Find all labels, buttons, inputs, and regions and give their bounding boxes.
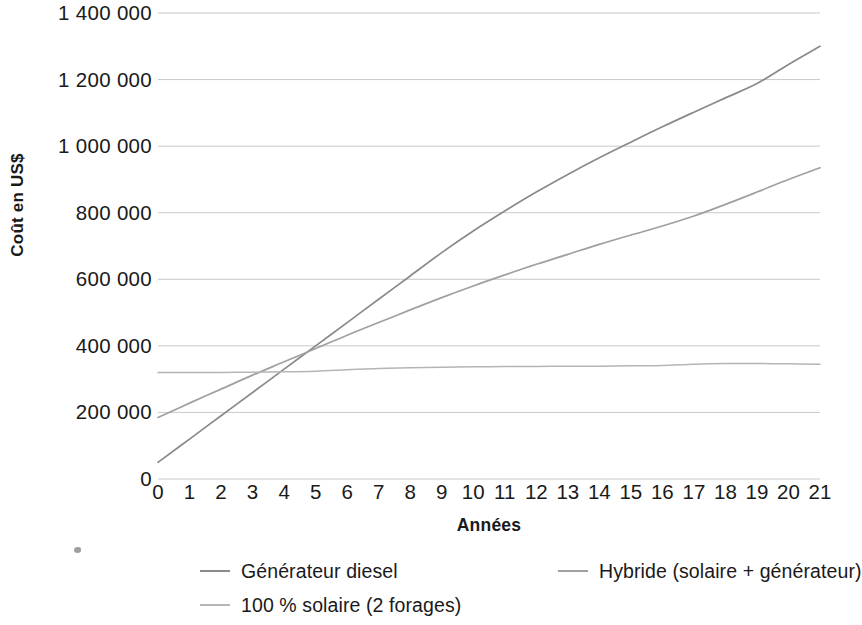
- x-axis-tick-label: 1: [184, 481, 195, 503]
- x-axis-tick-labels: 0123456789101112131415161718192021: [158, 481, 820, 511]
- x-axis-tick-label: 12: [525, 481, 548, 503]
- x-axis-tick-label: 8: [404, 481, 415, 503]
- scan-artifact-speck: [74, 547, 81, 553]
- legend-row: 100 % solaire (2 forages): [158, 590, 828, 620]
- y-axis-tick-label: 200 000: [6, 402, 152, 423]
- x-axis-tick-label: 11: [494, 481, 515, 503]
- y-axis-tick-label: 0: [6, 469, 152, 490]
- series-line: [158, 168, 820, 418]
- y-axis-tick-label: 1 000 000: [6, 136, 152, 157]
- x-axis-tick-label: 3: [247, 481, 258, 503]
- plot-area: [158, 13, 820, 479]
- gridlines: [158, 13, 820, 479]
- legend-swatch-icon: [200, 570, 230, 572]
- legend-label: Générateur diesel: [241, 560, 398, 582]
- y-axis-tick-label: 400 000: [6, 336, 152, 357]
- legend-row: Générateur dieselHybride (solaire + géné…: [158, 556, 828, 586]
- x-axis-tick-label: 6: [341, 481, 352, 503]
- legend-swatch-icon: [200, 604, 230, 606]
- x-axis-tick-label: 9: [436, 481, 447, 503]
- x-axis-tick-label: 10: [462, 481, 485, 503]
- series-lines: [158, 46, 820, 462]
- x-axis-title: Années: [158, 515, 820, 536]
- x-axis-tick-label: 19: [746, 481, 769, 503]
- x-axis-tick-label: 4: [278, 481, 289, 503]
- x-axis-tick-label: 0: [152, 481, 163, 503]
- x-axis-tick-label: 21: [809, 481, 832, 503]
- legend-label: Hybride (solaire + générateur): [599, 560, 862, 582]
- series-line: [158, 363, 820, 372]
- legend-swatch-icon: [558, 570, 588, 572]
- legend-item[interactable]: 100 % solaire (2 forages): [200, 590, 461, 620]
- y-axis-tick-labels: 1 400 0001 200 0001 000 000800 000600 00…: [0, 0, 152, 500]
- legend-label: 100 % solaire (2 forages): [241, 594, 461, 616]
- x-axis-tick-label: 20: [777, 481, 800, 503]
- x-axis-tick-label: 7: [373, 481, 384, 503]
- x-axis-tick-label: 15: [619, 481, 642, 503]
- y-axis-tick-label: 800 000: [6, 203, 152, 224]
- legend-item[interactable]: Générateur diesel: [200, 556, 398, 586]
- x-axis-tick-label: 14: [588, 481, 611, 503]
- y-axis-tick-label: 1 400 000: [6, 3, 152, 24]
- series-line: [158, 46, 820, 462]
- legend-item[interactable]: Hybride (solaire + générateur): [558, 556, 862, 586]
- chart-legend: Générateur dieselHybride (solaire + géné…: [158, 556, 828, 620]
- y-axis-tick-label: 600 000: [6, 269, 152, 290]
- x-axis-tick-label: 2: [215, 481, 226, 503]
- y-axis-tick-label: 1 200 000: [6, 70, 152, 91]
- x-axis-tick-label: 5: [310, 481, 321, 503]
- x-axis-tick-label: 18: [714, 481, 737, 503]
- x-axis-tick-label: 17: [682, 481, 705, 503]
- x-axis-tick-label: 16: [651, 481, 674, 503]
- x-axis-tick-label: 13: [556, 481, 579, 503]
- plot-svg: [158, 13, 820, 479]
